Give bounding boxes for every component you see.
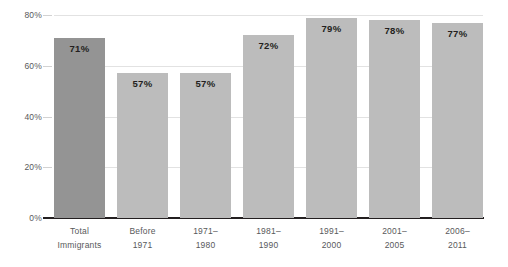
x-tick-label-line-1: 1991–	[296, 224, 367, 238]
x-tick-label-line-2: 1990	[233, 238, 304, 252]
bar[interactable]: 57%	[180, 73, 231, 218]
x-tick-label-line-2: 2000	[296, 238, 367, 252]
x-tick-label-line-1: Total	[44, 224, 115, 238]
bar-value-label: 57%	[180, 78, 231, 89]
bar-value-label: 71%	[54, 43, 105, 54]
x-tick-label: TotalImmigrants	[44, 224, 115, 252]
x-tick-label-line-1: Before	[107, 224, 178, 238]
x-tick-label-line-2: 2005	[359, 238, 430, 252]
bar-value-label: 72%	[243, 40, 294, 51]
bar[interactable]: 77%	[432, 23, 483, 218]
x-tick-label-line-2: 1971	[107, 238, 178, 252]
x-axis-labels: TotalImmigrantsBefore19711971–19801981–1…	[54, 224, 483, 264]
y-tick-label-20: 20%	[2, 162, 42, 172]
bar[interactable]: 57%	[117, 73, 168, 218]
y-tick-label-60: 60%	[2, 61, 42, 71]
y-tick-label-0: 0%	[2, 213, 42, 223]
bar-value-label: 77%	[432, 28, 483, 39]
y-tick-mark-60	[43, 66, 52, 67]
bar-value-label: 57%	[117, 78, 168, 89]
y-tick-mark-80	[43, 15, 52, 16]
y-tick-mark-20	[43, 167, 52, 168]
x-tick-label: 1981–1990	[233, 224, 304, 252]
bar-value-label: 78%	[369, 25, 420, 36]
x-tick-label: 2006–2011	[422, 224, 493, 252]
bar[interactable]: 78%	[369, 20, 420, 218]
y-tick-mark-40	[43, 117, 52, 118]
gridline-80	[54, 15, 483, 16]
bar[interactable]: 71%	[54, 38, 105, 218]
bar[interactable]: 72%	[243, 35, 294, 218]
y-tick-label-80: 80%	[2, 10, 42, 20]
x-tick-label-line-1: 1981–	[233, 224, 304, 238]
x-tick-label-line-2: 1980	[170, 238, 241, 252]
x-tick-label: 1971–1980	[170, 224, 241, 252]
x-tick-label-line-1: 1971–	[170, 224, 241, 238]
plot-area: 71%57%57%72%79%78%77%	[54, 15, 483, 218]
x-tick-label: 1991–2000	[296, 224, 367, 252]
x-tick-label-line-2: Immigrants	[44, 238, 115, 252]
y-tick-label-40: 40%	[2, 112, 42, 122]
x-tick-label: Before1971	[107, 224, 178, 252]
bar-chart: 0%20%40%60%80% 71%57%57%72%79%78%77% Tot…	[0, 0, 508, 267]
x-tick-label-line-1: 2006–	[422, 224, 493, 238]
y-axis-labels: 0%20%40%60%80%	[0, 15, 42, 218]
x-tick-label-line-1: 2001–	[359, 224, 430, 238]
bar-value-label: 79%	[306, 23, 357, 34]
x-tick-label-line-2: 2011	[422, 238, 493, 252]
x-tick-label: 2001–2005	[359, 224, 430, 252]
bar[interactable]: 79%	[306, 18, 357, 218]
